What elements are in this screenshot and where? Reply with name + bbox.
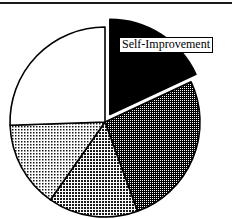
- pie-chart-svg: [0, 0, 232, 219]
- slice-label-self-improvement: Self-Improvement: [119, 37, 213, 53]
- pie-chart-figure: Self-Improvement: [0, 0, 232, 219]
- pie-slice[interactable]: [10, 27, 105, 125]
